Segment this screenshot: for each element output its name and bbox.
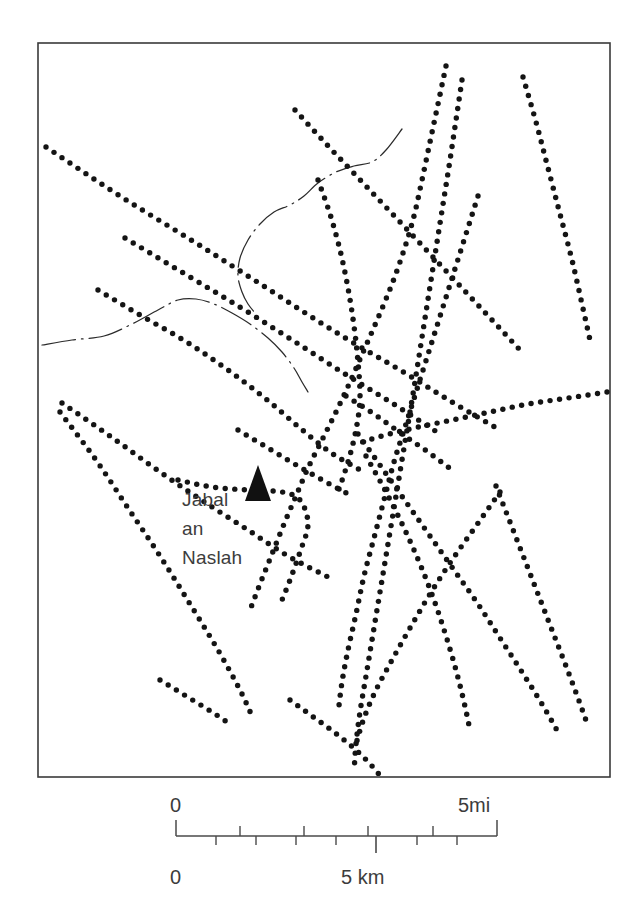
- track-dot: [440, 201, 445, 206]
- track-dot: [300, 542, 305, 547]
- track-dot: [358, 589, 363, 594]
- track-dot: [427, 592, 432, 597]
- track-dot: [132, 202, 137, 207]
- track-dot: [585, 325, 590, 330]
- track-dot: [374, 524, 379, 529]
- track-dot: [202, 351, 207, 356]
- track-dot: [424, 157, 429, 162]
- track-dot: [356, 412, 361, 417]
- track-dot: [481, 513, 486, 518]
- track-dot: [566, 395, 571, 400]
- track-dot: [437, 220, 442, 225]
- track-dot: [316, 569, 321, 574]
- track-dot: [451, 134, 456, 139]
- track-dot: [491, 409, 496, 414]
- track-dot: [212, 641, 217, 646]
- track-dot: [280, 489, 285, 494]
- track-dot: [293, 561, 298, 566]
- track-dot: [194, 346, 199, 351]
- track-dot: [356, 750, 361, 755]
- track-dot: [287, 579, 292, 584]
- track-dot: [325, 427, 330, 432]
- track-dot: [164, 222, 169, 227]
- track-dot: [282, 551, 287, 556]
- track-dot: [232, 486, 237, 491]
- track-dot: [433, 601, 438, 606]
- track-dot: [235, 683, 240, 688]
- track-dot: [423, 358, 428, 363]
- track-dot: [274, 540, 279, 545]
- track-dot: [234, 373, 239, 378]
- track-dot: [346, 288, 351, 293]
- track-dot: [371, 693, 376, 698]
- track-dot: [442, 568, 447, 573]
- track-dot: [391, 425, 396, 430]
- track-dot: [249, 603, 254, 608]
- track-dot: [293, 422, 298, 427]
- track-dot: [196, 280, 201, 285]
- track-dot: [296, 487, 301, 492]
- track-dot: [576, 698, 581, 703]
- track-dot: [376, 355, 381, 360]
- track-dot: [430, 453, 435, 458]
- track-dot: [331, 150, 336, 155]
- track-dot: [123, 197, 128, 202]
- track-dot: [388, 431, 393, 436]
- track-dot: [374, 608, 379, 613]
- track-dot: [170, 331, 175, 336]
- track-dot: [444, 418, 449, 423]
- track-dot: [357, 374, 362, 379]
- track-dot: [162, 326, 167, 331]
- track-dot: [388, 659, 393, 664]
- track-dot: [350, 626, 355, 631]
- track-dot: [182, 692, 187, 697]
- track-dot: [439, 619, 444, 624]
- track-dot: [229, 300, 234, 305]
- track-dot: [392, 364, 397, 369]
- track-dot: [205, 285, 210, 290]
- track-dot: [292, 107, 297, 112]
- track-dot: [604, 389, 609, 394]
- track-dot: [247, 709, 252, 714]
- track-dot: [139, 245, 144, 250]
- track-dot: [558, 213, 563, 218]
- track-dot: [278, 294, 283, 299]
- track-dot: [416, 424, 421, 429]
- track-dot: [411, 547, 416, 552]
- track-dot: [311, 714, 316, 719]
- track-dot: [397, 440, 402, 445]
- track-dot: [354, 608, 359, 613]
- track-dot: [491, 424, 496, 429]
- track-dot: [427, 533, 432, 538]
- track-dot: [498, 636, 503, 641]
- track-dot: [391, 504, 396, 509]
- track-dot: [409, 404, 414, 409]
- track-dot: [379, 505, 384, 510]
- track-dot: [81, 440, 86, 445]
- track-dot: [270, 289, 275, 294]
- track-dot: [524, 676, 529, 681]
- track-dot: [348, 450, 353, 455]
- track-dot: [257, 391, 262, 396]
- track-dot: [421, 324, 426, 329]
- track-dot: [335, 330, 340, 335]
- track-dot: [415, 386, 420, 391]
- track-dot: [493, 628, 498, 633]
- track-dot: [520, 74, 525, 79]
- track-dot: [146, 461, 151, 466]
- track-dot: [443, 182, 448, 187]
- track-dot: [319, 186, 324, 191]
- track-dot: [137, 312, 142, 317]
- track-dot: [177, 483, 182, 488]
- track-dot: [331, 452, 336, 457]
- track-dot: [186, 341, 191, 346]
- track-dot: [380, 304, 385, 309]
- track-dot: [396, 476, 401, 481]
- map-figure: Jabal an Naslah 0 5mi 0 5 km: [0, 0, 637, 899]
- track-dot: [378, 434, 383, 439]
- track-dot: [461, 239, 466, 244]
- track-dot: [205, 248, 210, 253]
- track-dot: [99, 427, 104, 432]
- track-dot: [416, 518, 421, 523]
- track-dot: [155, 255, 160, 260]
